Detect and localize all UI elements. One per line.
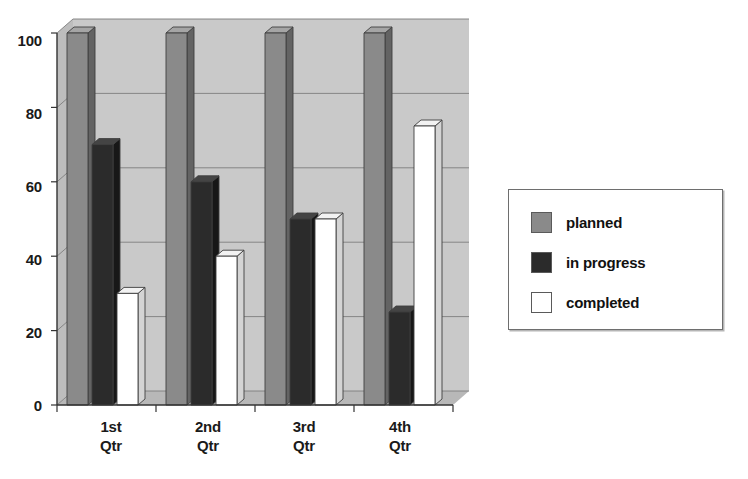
bar-planned-q3	[265, 27, 293, 405]
bar-in-progress-q2	[191, 176, 219, 405]
x-tick-line1: 1st	[66, 417, 156, 436]
bar-front	[216, 256, 237, 405]
legend-swatch-in-progress	[531, 252, 552, 273]
bar-side	[138, 287, 145, 405]
y-tick-label: 20	[2, 324, 42, 341]
bar-front	[265, 33, 286, 405]
legend-item-completed: completed	[531, 292, 639, 313]
bar-front	[364, 33, 385, 405]
bar-side	[237, 250, 244, 405]
chart-screenshot: 100 80 60 40 20 0 1st Qtr 2nd Qtr 3rd Qt…	[0, 0, 748, 479]
legend-label-in-progress: in progress	[566, 254, 646, 271]
bar-planned-q4	[364, 27, 392, 405]
bar-front	[290, 219, 311, 405]
y-tick-label: 100	[2, 32, 42, 49]
x-tick-label-q1: 1st Qtr	[66, 417, 156, 455]
bar-planned-q2	[166, 27, 194, 405]
bar-front	[67, 33, 88, 405]
bar-front	[191, 182, 212, 405]
bar-front	[92, 145, 113, 405]
bar-completed-q2	[216, 250, 244, 405]
bar-in-progress-q3	[290, 213, 318, 405]
y-tick-label: 0	[2, 397, 42, 414]
legend-label-planned: planned	[566, 214, 622, 231]
x-tick-line2: Qtr	[66, 436, 156, 455]
legend-swatch-planned	[531, 212, 552, 233]
bar-in-progress-q4	[389, 306, 417, 405]
y-tick-label: 40	[2, 251, 42, 268]
legend-swatch-completed	[531, 292, 552, 313]
bar-completed-q1	[117, 287, 145, 405]
chart-legend: planned in progress completed	[508, 189, 723, 330]
bar-in-progress-q1	[92, 139, 120, 405]
legend-item-planned: planned	[531, 212, 622, 233]
x-tick-line2: Qtr	[355, 436, 445, 455]
legend-item-in-progress: in progress	[531, 252, 646, 273]
x-tick-label-q4: 4th Qtr	[355, 417, 445, 455]
y-tick-label: 60	[2, 178, 42, 195]
bar-completed-q3	[315, 213, 343, 405]
bar-front	[389, 312, 410, 405]
x-tick-label-q3: 3rd Qtr	[259, 417, 349, 455]
legend-label-completed: completed	[566, 294, 639, 311]
x-tick-line2: Qtr	[163, 436, 253, 455]
bar-side	[435, 120, 442, 405]
bar-completed-q4	[414, 120, 442, 405]
x-tick-line2: Qtr	[259, 436, 349, 455]
x-tick-label-q2: 2nd Qtr	[163, 417, 253, 455]
bar-planned-q1	[67, 27, 95, 405]
bar-side	[336, 213, 343, 405]
y-tick-label: 80	[2, 105, 42, 122]
x-tick-line1: 3rd	[259, 417, 349, 436]
x-tick-line1: 2nd	[163, 417, 253, 436]
bar-front	[166, 33, 187, 405]
bar-front	[315, 219, 336, 405]
bar-front	[117, 293, 138, 405]
bar-front	[414, 126, 435, 405]
x-tick-line1: 4th	[355, 417, 445, 436]
